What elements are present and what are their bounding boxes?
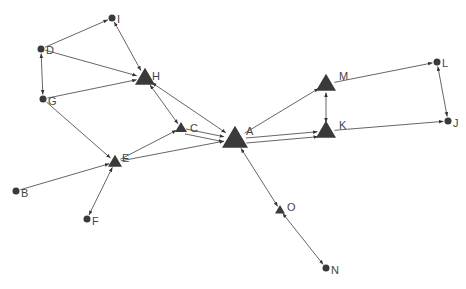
node-label-k: K (339, 119, 347, 131)
edge-a-k (246, 132, 318, 138)
node-g (40, 96, 47, 103)
node-label-g: G (48, 95, 57, 107)
node-label-e: E (122, 152, 129, 164)
edge-a-m (244, 88, 318, 133)
node-label-c: C (190, 122, 198, 134)
node-label-n: N (331, 264, 339, 276)
edge-d-g (41, 53, 43, 94)
node-i (109, 15, 116, 22)
node-b (13, 188, 20, 195)
node-label-b: B (21, 187, 28, 199)
node-label-a: A (246, 125, 254, 137)
node-label-f: F (92, 215, 99, 227)
node-o (275, 205, 285, 214)
node-k (316, 121, 336, 138)
edge-m-l (334, 63, 432, 82)
edge-i-h (114, 22, 141, 71)
edge-a-o (241, 148, 278, 206)
node-e (108, 155, 122, 167)
node-m (316, 74, 336, 91)
edge-d-h (45, 50, 136, 76)
node-d (38, 46, 45, 53)
edge-e-f (89, 167, 112, 215)
node-l (434, 59, 441, 66)
edge-g-e (46, 102, 110, 158)
edge-h-a (152, 83, 226, 133)
node-label-h: H (152, 70, 160, 82)
edge-d-i (45, 20, 108, 47)
node-label-i: I (117, 13, 120, 25)
edge-k-j (334, 121, 443, 130)
node-n (323, 265, 330, 272)
edge-l-j (438, 66, 447, 116)
edge-o-n (283, 213, 324, 264)
node-label-d: D (46, 44, 54, 56)
edge-b-e (20, 164, 109, 190)
graph-svg: ABCDEFGHIJKLMNO (0, 0, 466, 289)
edge-a-k (246, 137, 318, 143)
node-label-j: J (453, 117, 459, 129)
node-label-o: O (287, 201, 296, 213)
node-c (175, 122, 187, 132)
node-label-m: M (339, 70, 348, 82)
node-a (222, 126, 248, 148)
edge-g-h (47, 80, 136, 98)
node-j (445, 118, 452, 125)
node-label-l: L (442, 57, 448, 69)
nodes-layer (13, 15, 452, 272)
network-graph: ABCDEFGHIJKLMNO (0, 0, 466, 289)
node-f (84, 216, 91, 223)
